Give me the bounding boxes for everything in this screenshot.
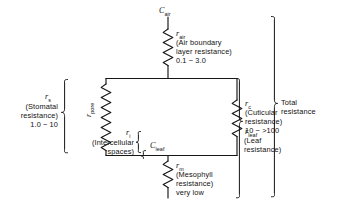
resistor-label-r-pore: rpore bbox=[84, 103, 95, 117]
resistor-mesophyll-description-line1: (Mesophyll bbox=[176, 170, 213, 179]
resistor-air-description-line2: layer resistance) bbox=[176, 47, 232, 56]
bracket-total-description-line2: resistance bbox=[281, 107, 316, 116]
resistance-network-diagram: Cair Cleaf rair (Air boundary layer resi… bbox=[0, 0, 340, 204]
bracket-stomatal-description-line2: resistance) bbox=[0, 111, 58, 120]
resistor-intercellular-description-line1: (Intercellular bbox=[56, 138, 134, 147]
bracket-leaf-description-line2: resistance) bbox=[244, 145, 281, 154]
resistor-mesophyll-value: very low bbox=[176, 188, 204, 197]
resistor-cuticular-description-line2: resistance) bbox=[245, 117, 282, 126]
resistor-cuticular-zigzag bbox=[232, 100, 242, 137]
resistor-air-value: 0.1 − 3.0 bbox=[176, 56, 206, 65]
resistor-mesophyll-description-line2: resistance) bbox=[176, 179, 213, 188]
resistor-intercellular-description-line2: spaces) bbox=[56, 147, 134, 156]
resistor-mesophyll-zigzag bbox=[163, 161, 173, 188]
node-label-c-air: Cair bbox=[159, 6, 171, 17]
resistor-cuticular-description-line1: (Cuticular bbox=[245, 108, 278, 117]
bracket-total bbox=[272, 17, 278, 197]
bracket-cleaf bbox=[141, 151, 145, 159]
bracket-total-description-line1: Total bbox=[281, 98, 297, 107]
bracket-stomatal-description-line1: (Stomatal bbox=[0, 102, 58, 111]
bracket-leaf-description-line1: (Leaf bbox=[244, 136, 261, 145]
bracket-stomatal-value: 1.0 − 10 bbox=[0, 120, 58, 129]
resistor-air-zigzag bbox=[163, 29, 173, 66]
bracket-intercellular bbox=[136, 132, 140, 153]
resistor-air-description-line1: (Air boundary bbox=[176, 38, 222, 47]
node-label-c-leaf: Cleaf bbox=[150, 141, 165, 152]
